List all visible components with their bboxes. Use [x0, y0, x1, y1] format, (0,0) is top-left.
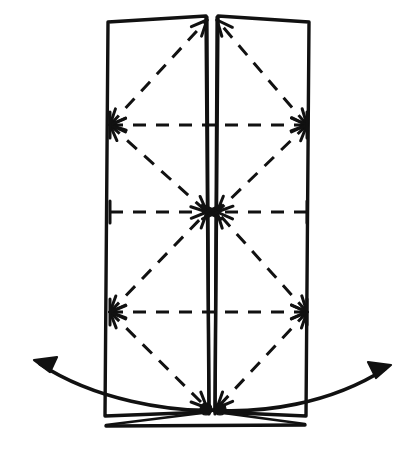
- crease-left-upper-diagonal: [110, 20, 207, 125]
- crease-right-mid-upper-diagonal: [217, 125, 307, 212]
- left-pivot-dot: [200, 403, 212, 415]
- crease-right-lower-diagonal: [217, 312, 307, 408]
- right-pivot-dot: [214, 403, 226, 415]
- crease-left-mid-upper-diagonal: [110, 125, 207, 212]
- crease-left-lower-diagonal: [110, 312, 207, 408]
- crease-right-mid-lower-diagonal: [217, 212, 307, 312]
- crease-right-upper-diagonal: [217, 20, 307, 125]
- folding-diagram-canvas: [0, 0, 412, 471]
- left-motion-arrow: [40, 364, 216, 410]
- bottom-base-line: [106, 425, 305, 426]
- folding-diagram-svg: [0, 0, 412, 471]
- crease-left-mid-lower-diagonal: [110, 212, 207, 312]
- motion-arrows: [34, 357, 391, 411]
- left-motion-arrowhead: [34, 357, 57, 372]
- right-motion-arrow: [208, 369, 385, 411]
